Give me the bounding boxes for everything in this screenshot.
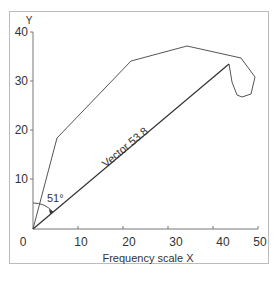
angle-label: 51° [47,192,64,204]
x-tick-label-20: 20 [122,235,136,249]
y-tick-label-40: 40 [15,25,29,39]
x-tick-label-50: 50 [253,235,267,249]
x-tick-label-40: 40 [216,235,230,249]
x-axis-title: Frequency scale X [102,252,194,264]
y-tick-label-20: 20 [15,123,29,137]
vector-label: Vector 53.8 [100,125,150,170]
y-tick-label-30: 30 [15,74,29,88]
x-tick-label-30: 30 [169,235,183,249]
y-tick-label-10: 10 [15,172,29,186]
chart-figure: Y 40 30 20 10 0 10 20 30 40 50 Frequency… [0,0,278,284]
x-tick-label-10: 10 [74,235,88,249]
origin-label: 0 [20,235,27,249]
